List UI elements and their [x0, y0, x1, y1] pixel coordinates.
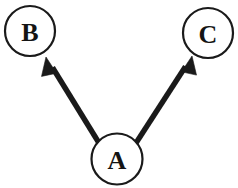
- node-a[interactable]: A: [92, 134, 143, 185]
- node-a-label: A: [108, 146, 127, 175]
- edge-a-to-b-shaft: [53, 68, 100, 144]
- edge-a-to-c-shaft: [136, 67, 186, 144]
- diagram-canvas: B C A: [0, 0, 238, 188]
- edge-a-to-c[interactable]: [136, 56, 197, 143]
- edge-a-to-b[interactable]: [42, 57, 100, 143]
- node-b[interactable]: B: [5, 6, 55, 56]
- node-c[interactable]: C: [183, 8, 233, 58]
- graph-diagram: B C A: [0, 0, 238, 188]
- node-c-label: C: [199, 20, 218, 49]
- node-b-label: B: [21, 18, 38, 47]
